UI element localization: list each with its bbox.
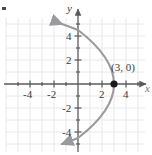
parabola-figure: y x -4 -2 2 4 4 2 -2 -4 (3, 0) (0, 0, 152, 155)
corner-artifact-mark (2, 7, 6, 10)
axes (4, 9, 146, 152)
coordinate-plane-svg (0, 0, 152, 155)
vertex-point-marker (110, 80, 117, 87)
